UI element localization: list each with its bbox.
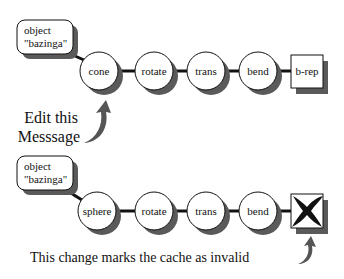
brep-cache-box[interactable]: b-rep	[291, 55, 328, 94]
node-label: rotate	[141, 65, 166, 77]
curved-arrow-icon	[84, 100, 111, 143]
node-cone[interactable]: cone	[80, 52, 123, 95]
node-label: bend	[247, 65, 269, 77]
object-box-top[interactable]: object "bazinga"	[17, 20, 78, 59]
node-rotate[interactable]: rotate	[135, 192, 178, 235]
object-box-bottom[interactable]: object "bazinga"	[17, 156, 78, 195]
node-trans[interactable]: trans	[187, 52, 230, 95]
node-label: cone	[89, 65, 110, 77]
node-sphere[interactable]: sphere	[78, 192, 121, 235]
object-name: "bazinga"	[24, 173, 67, 185]
node-label: sphere	[83, 205, 112, 217]
cache-diagram: object "bazinga" cone rotate trans bend	[0, 0, 344, 279]
brep-label: b-rep	[295, 65, 319, 77]
invalid-text: This change marks the cache as invalid	[30, 250, 249, 265]
node-label: trans	[195, 65, 216, 77]
edit-text-line1: Edit this	[24, 109, 78, 126]
node-label: trans	[195, 205, 216, 217]
edit-text-line2: Messsage	[18, 128, 80, 146]
node-bend[interactable]: bend	[239, 52, 282, 95]
invalid-cache-box[interactable]	[291, 194, 328, 234]
invalid-annotation: This change marks the cache as invalid	[30, 236, 316, 265]
object-label: object	[24, 24, 51, 36]
node-bend[interactable]: bend	[239, 192, 282, 235]
bottom-row: object "bazinga" sphere rotate trans ben…	[17, 156, 328, 235]
curved-arrow-icon	[298, 236, 316, 264]
object-label: object	[24, 160, 51, 172]
edit-annotation: Edit this Messsage	[18, 100, 111, 146]
top-row: object "bazinga" cone rotate trans bend	[17, 20, 328, 95]
node-trans[interactable]: trans	[187, 192, 230, 235]
object-name: "bazinga"	[24, 37, 67, 49]
node-label: rotate	[141, 205, 166, 217]
node-label: bend	[247, 205, 269, 217]
node-rotate[interactable]: rotate	[135, 52, 178, 95]
